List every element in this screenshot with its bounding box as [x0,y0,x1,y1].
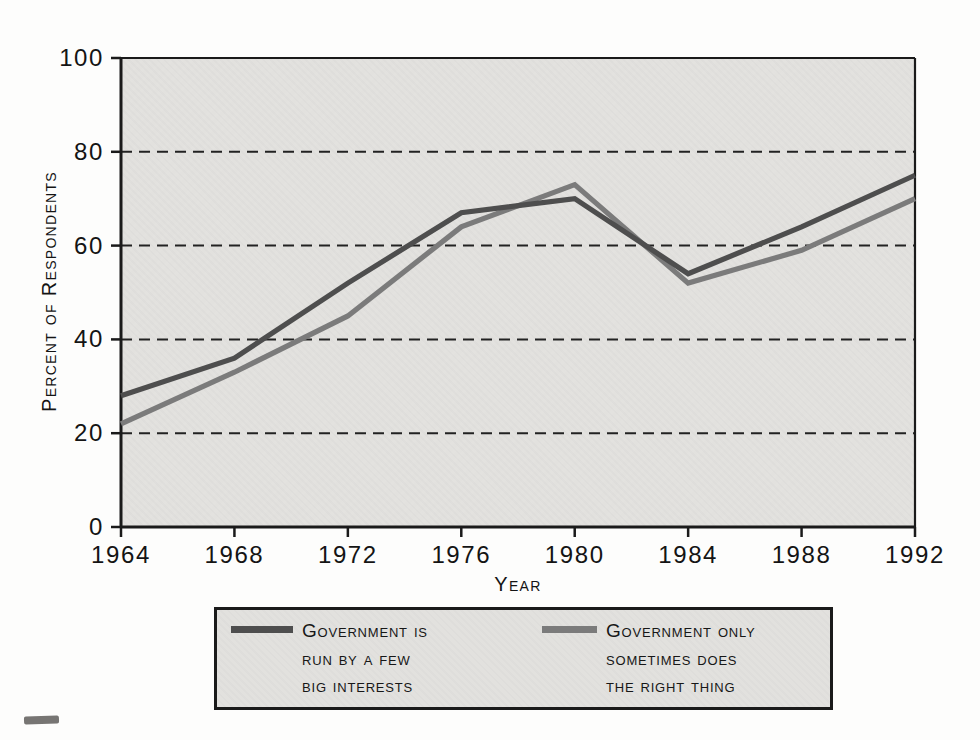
x-tick-label: 1968 [179,541,289,569]
legend-entry: Government is run by a few big interests [231,617,428,700]
legend-box: Government is run by a few big interests… [214,607,833,710]
chart-figure: 0204060801001964196819721976198019841988… [0,0,980,740]
x-tick-label: 1964 [66,541,176,569]
legend-line-swatch-dark [231,626,293,633]
series-line [121,175,915,395]
y-tick-label: 60 [22,232,104,260]
y-tick-label: 100 [22,44,104,72]
y-tick-label: 40 [22,325,104,353]
y-axis-title: Percent of Respondents [38,92,61,492]
y-tick-label: 20 [22,419,104,447]
legend-entry-label: Government only sometimes does the right… [606,617,756,700]
legend-entry: Government only sometimes does the right… [542,617,756,700]
y-tick-label: 80 [22,138,104,166]
x-axis-title: Year [418,573,618,596]
legend-entry-label: Government is run by a few big interests [302,617,428,700]
x-tick-label: 1992 [860,541,970,569]
series-line [121,185,915,424]
x-tick-label: 1980 [520,541,630,569]
legend-line-swatch-gray [542,626,597,633]
print-artifact [24,715,59,724]
x-tick-label: 1988 [747,541,857,569]
x-tick-label: 1972 [293,541,403,569]
x-tick-label: 1976 [406,541,516,569]
y-tick-label: 0 [22,513,104,541]
x-tick-label: 1984 [633,541,743,569]
line-chart [103,48,963,548]
